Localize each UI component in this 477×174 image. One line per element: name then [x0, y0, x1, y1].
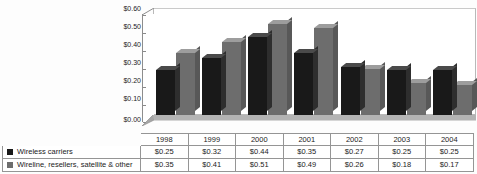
table-row: Wireless carriers $0.25 $0.32 $0.44 $0.3…: [2, 146, 474, 159]
y-tick-label: $0.10: [105, 95, 141, 102]
bar-wireless-2004: [433, 70, 452, 115]
y-tick-mark: [143, 69, 146, 70]
y-tick-mark: [143, 15, 146, 16]
y-axis-labels: $0.60 $0.50 $0.40 $0.30 $0.20 $0.10 $0.0…: [105, 4, 141, 126]
bar-group: [338, 8, 384, 115]
y-tick-label: $0.20: [105, 77, 141, 84]
table-cell: $0.25: [379, 146, 427, 159]
y-tick-label: $0.60: [105, 5, 141, 12]
table-header-cell: 2000: [236, 133, 284, 146]
bar-side-face: [195, 46, 200, 111]
table-cell: $0.25: [141, 146, 189, 159]
table-header-cell: 2003: [379, 133, 427, 146]
bar-front-face: [202, 58, 221, 115]
table-header-cell: 1998: [141, 133, 189, 146]
bar-side-face: [241, 35, 246, 111]
y-tick-mark: [143, 105, 146, 106]
bar-group: [291, 8, 337, 115]
bar-group: [245, 8, 291, 115]
table-header-cell: 2002: [331, 133, 379, 146]
bar-side-face: [175, 63, 180, 111]
table-cell: $0.35: [141, 159, 189, 172]
table-header-cell: 2004: [426, 133, 474, 146]
legend-label: Wireless carriers: [17, 146, 73, 158]
table-cell: $0.51: [236, 159, 284, 172]
bar-side-face: [267, 30, 272, 111]
bar-side-face: [452, 63, 457, 111]
table-cell: $0.35: [284, 146, 332, 159]
y-tick-label: $0.00: [105, 116, 141, 123]
bar-front-face: [294, 53, 313, 115]
table-cell: $0.18: [379, 159, 427, 172]
y-tick-mark: [143, 51, 146, 52]
legend-swatch-icon: [7, 162, 13, 168]
bar-front-face: [248, 37, 267, 115]
table-header-cell: 1999: [189, 133, 237, 146]
y-tick-label: $0.50: [105, 23, 141, 30]
bar-front-face: [433, 70, 452, 115]
table-corner-cell: [2, 133, 141, 146]
legend-item-wireless-carriers: Wireless carriers: [2, 146, 141, 159]
y-tick-mark: [143, 87, 146, 88]
table-row: Wireline, resellers, satellite & other $…: [2, 159, 474, 172]
bar-wireless-2003: [387, 70, 406, 115]
bar-wireless-2002: [341, 67, 360, 115]
table-header-cell: 2001: [284, 133, 332, 146]
bar-side-face: [221, 51, 226, 111]
table-cell: $0.44: [236, 146, 284, 159]
bar-side-face: [380, 62, 385, 111]
table-cell: $0.25: [426, 146, 474, 159]
bar-group: [199, 8, 245, 115]
bar-side-face: [313, 46, 318, 111]
table-cell: $0.49: [284, 159, 332, 172]
table-cell: $0.26: [331, 159, 379, 172]
legend-swatch-icon: [7, 149, 13, 155]
table-cell: $0.27: [331, 146, 379, 159]
bar-side-face: [406, 63, 411, 111]
table-header-row: 1998 1999 2000 2001 2002 2003 2004: [2, 133, 474, 146]
y-tick-label: $0.30: [105, 59, 141, 66]
data-table: 1998 1999 2000 2001 2002 2003 2004 Wirel…: [2, 133, 474, 173]
table-cell: $0.17: [426, 159, 474, 172]
bar-front-face: [387, 70, 406, 115]
chart-floor: [142, 115, 476, 126]
bar-front-face: [156, 70, 175, 115]
bar-group: [430, 8, 476, 115]
bar-group: [153, 8, 199, 115]
plot-area: $0.60 $0.50 $0.40 $0.30 $0.20 $0.10 $0.0…: [105, 4, 476, 134]
y-tick-label: $0.40: [105, 41, 141, 48]
bar-wireless-1999: [202, 58, 221, 115]
bar-side-face: [333, 21, 338, 111]
legend-label: Wireline, resellers, satellite & other: [17, 159, 132, 171]
bar-series-container: [153, 8, 476, 115]
bar-front-face: [341, 67, 360, 115]
bar-wireless-2000: [248, 37, 267, 115]
bar-wireless-1998: [156, 70, 175, 115]
table-cell: $0.32: [189, 146, 237, 159]
legend-item-wireline-resellers: Wireline, resellers, satellite & other: [2, 159, 141, 172]
y-tick-mark: [143, 33, 146, 34]
bar-group: [384, 8, 430, 115]
bar-side-face: [287, 17, 292, 111]
bar-wireless-2001: [294, 53, 313, 115]
bar-side-face: [360, 60, 365, 111]
table-cell: $0.41: [189, 159, 237, 172]
